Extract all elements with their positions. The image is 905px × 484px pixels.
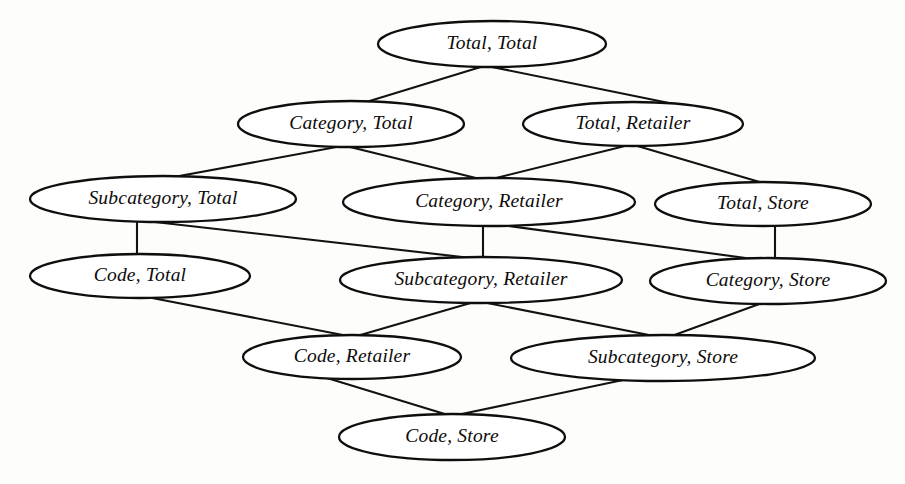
edge-subcategory-retailer-to-subcategory-store: [482, 302, 659, 337]
edge-total-total-to-total-retailer: [487, 66, 669, 103]
node-label-code-store: Code, Store: [405, 425, 499, 446]
node-category-total[interactable]: Category, Total: [238, 101, 464, 147]
edge-category-total-to-subcategory-total: [163, 146, 342, 179]
node-label-subcategory-total: Subcategory, Total: [88, 187, 237, 208]
node-label-subcategory-retailer: Subcategory, Retailer: [394, 268, 567, 289]
edge-subcategory-retailer-to-code-retailer: [357, 302, 474, 336]
node-label-code-retailer: Code, Retailer: [294, 345, 411, 366]
nodes-layer: Total, TotalCategory, TotalTotal, Retail…: [30, 21, 886, 460]
node-label-total-store: Total, Store: [717, 192, 809, 213]
node-subcategory-retailer[interactable]: Subcategory, Retailer: [340, 257, 622, 303]
node-category-store[interactable]: Category, Store: [650, 258, 886, 304]
node-label-subcategory-store: Subcategory, Store: [588, 346, 738, 367]
edge-subcategory-store-to-code-store: [457, 380, 623, 415]
node-label-code-total: Code, Total: [94, 264, 187, 285]
lattice-diagram: Total, TotalCategory, TotalTotal, Retail…: [0, 0, 905, 484]
node-label-category-store: Category, Store: [706, 269, 831, 290]
edge-total-retailer-to-category-retailer: [492, 145, 629, 179]
node-subcategory-store[interactable]: Subcategory, Store: [511, 335, 815, 381]
node-category-retailer[interactable]: Category, Retailer: [343, 178, 635, 226]
edge-category-total-to-category-retailer: [346, 146, 484, 180]
node-label-total-retailer: Total, Retailer: [576, 112, 691, 133]
node-total-total[interactable]: Total, Total: [378, 21, 606, 67]
edge-code-total-to-code-retailer: [147, 297, 348, 336]
edge-subcategory-total-to-subcategory-retailer: [146, 221, 471, 258]
node-total-retailer[interactable]: Total, Retailer: [523, 102, 743, 146]
edge-total-total-to-category-total: [363, 66, 484, 103]
diagram-canvas: Total, TotalCategory, TotalTotal, Retail…: [0, 0, 905, 484]
edge-total-retailer-to-total-store: [634, 145, 763, 183]
node-code-store[interactable]: Code, Store: [339, 414, 565, 460]
node-code-retailer[interactable]: Code, Retailer: [243, 335, 461, 379]
node-label-category-total: Category, Total: [289, 112, 413, 133]
node-label-total-total: Total, Total: [447, 32, 538, 53]
edge-code-retailer-to-code-store: [327, 378, 448, 415]
node-label-category-retailer: Category, Retailer: [415, 190, 563, 211]
node-total-store[interactable]: Total, Store: [655, 182, 871, 226]
edge-category-store-to-subcategory-store: [669, 303, 762, 337]
node-code-total[interactable]: Code, Total: [30, 254, 250, 298]
node-subcategory-total[interactable]: Subcategory, Total: [30, 176, 296, 222]
edge-category-retailer-to-category-store: [494, 224, 753, 259]
